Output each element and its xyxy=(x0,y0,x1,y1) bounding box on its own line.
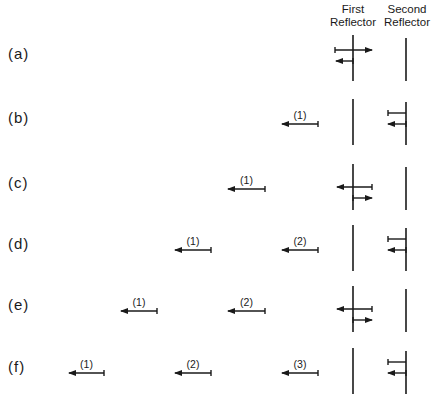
pulse-label: (1) xyxy=(80,358,93,370)
header-first-reflector: First Reflector xyxy=(330,3,376,28)
row-b: (b)(1) xyxy=(8,99,406,145)
pulse-label: (1) xyxy=(294,109,307,121)
second-reflected-arrow xyxy=(388,247,406,253)
header-second-line1: Second xyxy=(387,3,426,15)
row-f: (f)(1)(2)(3) xyxy=(8,348,406,394)
transmitted-arrow xyxy=(353,195,372,201)
second-reflected-arrow xyxy=(388,121,406,127)
pulse-label: (2) xyxy=(240,296,253,308)
row-e: (e)(1)(2) xyxy=(8,286,406,332)
reflected-arrow xyxy=(337,306,372,312)
reflection-diagram: First Reflector Second Reflector (a)(b)(… xyxy=(0,0,433,400)
pulse-arrow xyxy=(175,370,211,376)
rows-group: (a)(b)(1)(c)(1)(d)(1)(2)(e)(1)(2)(f)(1)(… xyxy=(8,35,406,394)
row-d: (d)(1)(2) xyxy=(8,225,406,271)
pulse-arrow xyxy=(282,121,318,127)
pulse-label: (3) xyxy=(294,358,307,370)
pulse-label: (2) xyxy=(294,235,307,247)
pulse-arrow xyxy=(228,186,265,192)
pulse-arrow xyxy=(228,308,265,314)
pulse-label: (1) xyxy=(187,235,200,247)
pulse-label: (1) xyxy=(133,296,146,308)
second-reflected-arrow xyxy=(388,370,406,376)
reflected-arrow xyxy=(336,58,353,64)
row-label: (a) xyxy=(8,45,29,62)
header-second-line2: Reflector xyxy=(384,16,430,28)
pulse-arrow xyxy=(175,247,211,253)
row-c: (c)(1) xyxy=(8,164,406,210)
header-second-reflector: Second Reflector xyxy=(384,3,430,28)
row-label: (b) xyxy=(8,109,29,126)
pulse-arrow xyxy=(282,247,318,253)
diagram-svg: First Reflector Second Reflector (a)(b)(… xyxy=(0,0,433,400)
row-a: (a) xyxy=(8,35,406,81)
row-label: (f) xyxy=(8,358,25,375)
header-first-line2: Reflector xyxy=(330,16,376,28)
pulse-arrow xyxy=(121,308,157,314)
pulse-arrow xyxy=(282,370,318,376)
pulse-arrow xyxy=(69,370,104,376)
reflected-arrow xyxy=(337,184,372,190)
header-first-line1: First xyxy=(342,3,365,15)
pulse-label: (1) xyxy=(240,174,253,186)
transmitted-arrow xyxy=(353,317,372,323)
row-label: (d) xyxy=(8,235,29,252)
pulse-label: (2) xyxy=(187,358,200,370)
row-label: (e) xyxy=(8,296,29,313)
row-label: (c) xyxy=(8,174,29,191)
